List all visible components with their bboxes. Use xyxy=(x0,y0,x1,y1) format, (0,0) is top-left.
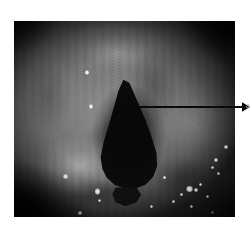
vignette-bottom-right xyxy=(14,21,235,217)
arrow-label-cutoff: a xyxy=(246,101,251,110)
endoscopic-photograph xyxy=(14,21,235,217)
figure-root: a xyxy=(0,0,251,232)
